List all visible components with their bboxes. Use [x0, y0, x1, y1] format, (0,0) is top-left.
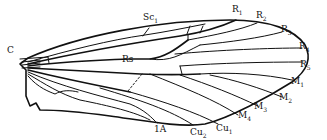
- m3-vein: [180, 75, 258, 106]
- subcosta-vein: [28, 24, 205, 62]
- vein-label-rs: Rs: [122, 55, 133, 64]
- vein-label-m1: M1: [291, 77, 304, 88]
- r5-vein: [180, 62, 303, 66]
- vein-label-m3: M3: [254, 102, 267, 113]
- r4-vein: [175, 48, 302, 54]
- cu2-vein: [100, 88, 193, 125]
- vein-label-m4: M4: [238, 111, 251, 122]
- m-dashed-crossvein: [128, 74, 142, 91]
- vein-label-m2: M2: [279, 93, 292, 104]
- vein-label-sc1: Sc1: [143, 13, 158, 24]
- vein-label-r2: R2: [256, 11, 267, 22]
- vein-label-c: C: [7, 46, 14, 55]
- 1a-vein: [28, 72, 157, 123]
- wing-diagram: [0, 0, 327, 140]
- vein-label-r5: R5: [300, 60, 311, 71]
- r-crossvein: [180, 66, 182, 74]
- vein-label-r3: R3: [281, 25, 292, 36]
- m-stem: [28, 68, 200, 75]
- vein-label-r4: R4: [299, 42, 310, 53]
- m1-vein: [200, 73, 292, 80]
- vein-label-cu1: Cu1: [216, 124, 233, 135]
- vein-label-r1: R1: [232, 5, 243, 16]
- vein-label-cu2: Cu2: [190, 128, 207, 139]
- vein-label-1a: 1A: [154, 125, 166, 134]
- r3-vein: [200, 32, 282, 45]
- rs-vein: [28, 40, 188, 66]
